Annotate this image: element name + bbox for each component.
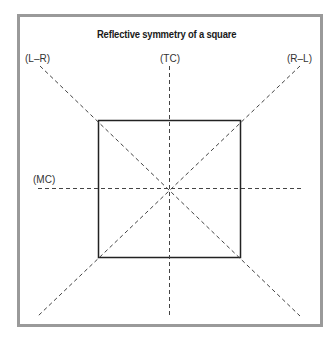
symmetry-diagram (0, 0, 333, 342)
